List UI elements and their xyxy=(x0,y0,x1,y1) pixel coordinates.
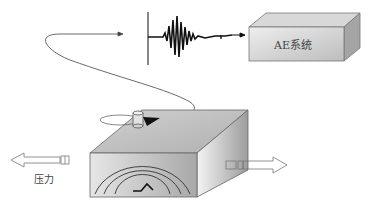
ae-diagram xyxy=(0,0,369,212)
ae-waveform xyxy=(148,12,245,65)
left-pressure-arrow xyxy=(11,153,69,167)
specimen-block xyxy=(90,110,248,197)
ae-system-label: AE系统 xyxy=(274,36,312,52)
pressure-label: 压力 xyxy=(34,171,54,186)
sensor-cable xyxy=(46,32,195,118)
